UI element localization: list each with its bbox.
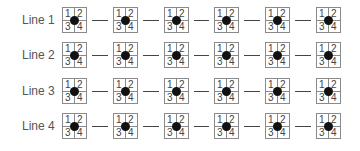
quadrant-number: 3 <box>116 22 122 32</box>
quadrant-box: 1234 <box>265 42 290 68</box>
quadrant-number: 3 <box>268 128 274 138</box>
quadrant-box: 1234 <box>164 78 189 104</box>
node-dot-icon <box>70 16 79 25</box>
connector-line <box>295 20 311 21</box>
line-label: Line 1 <box>22 13 55 27</box>
quadrant-box: 1234 <box>113 78 138 104</box>
quadrant-number: 3 <box>65 128 71 138</box>
node-dot-icon <box>172 51 181 60</box>
quadrant-number: 3 <box>217 22 223 32</box>
quadrant-box: 1234 <box>265 78 290 104</box>
quadrant-number: 3 <box>167 57 173 67</box>
quadrant-number: 3 <box>167 93 173 103</box>
node-dot-icon <box>222 87 231 96</box>
quadrant-box: 1234 <box>316 42 341 68</box>
connector-line <box>143 20 159 21</box>
quadrant-box: 1234 <box>164 42 189 68</box>
quadrant-number: 3 <box>65 22 71 32</box>
connector-line <box>143 91 159 92</box>
quadrant-number: 3 <box>116 93 122 103</box>
quadrant-number: 3 <box>268 93 274 103</box>
node-dot-icon <box>121 51 130 60</box>
quadrant-number: 3 <box>319 128 325 138</box>
quadrant-number: 3 <box>65 57 71 67</box>
line-row: Line 1123412341234123412341234 <box>0 7 360 34</box>
line-row: Line 4123412341234123412341234 <box>0 113 360 140</box>
quadrant-box: 1234 <box>316 78 341 104</box>
quadrant-box: 1234 <box>113 42 138 68</box>
quadrant-box: 1234 <box>316 113 341 139</box>
node-dot-icon <box>273 87 282 96</box>
node-dot-icon <box>121 16 130 25</box>
node-dot-icon <box>222 16 231 25</box>
connector-line <box>194 20 209 21</box>
quadrant-number: 3 <box>217 93 223 103</box>
node-dot-icon <box>222 51 231 60</box>
line-label: Line 4 <box>22 119 55 133</box>
node-dot-icon <box>70 122 79 131</box>
connector-line <box>194 55 209 56</box>
node-dot-icon <box>172 122 181 131</box>
connector-line <box>143 55 159 56</box>
quadrant-number: 3 <box>268 22 274 32</box>
node-dot-icon <box>70 87 79 96</box>
connector-line <box>295 55 311 56</box>
connector-line <box>295 91 311 92</box>
quadrant-box: 1234 <box>214 42 239 68</box>
connector-line <box>244 55 260 56</box>
quadrant-number: 3 <box>319 22 325 32</box>
quadrant-box: 1234 <box>265 7 290 33</box>
quadrant-number: 3 <box>167 22 173 32</box>
quadrant-box: 1234 <box>214 78 239 104</box>
quadrant-number: 3 <box>268 57 274 67</box>
line-row: Line 2123412341234123412341234 <box>0 42 360 69</box>
quadrant-box: 1234 <box>265 113 290 139</box>
node-dot-icon <box>121 87 130 96</box>
quadrant-box: 1234 <box>62 42 87 68</box>
node-dot-icon <box>273 122 282 131</box>
connector-line <box>244 126 260 127</box>
node-dot-icon <box>70 51 79 60</box>
node-dot-icon <box>222 122 231 131</box>
quadrant-box: 1234 <box>214 113 239 139</box>
node-dot-icon <box>121 122 130 131</box>
quadrant-number: 3 <box>319 93 325 103</box>
connector-line <box>92 126 108 127</box>
quadrant-box: 1234 <box>164 7 189 33</box>
node-dot-icon <box>273 16 282 25</box>
quadrant-number: 3 <box>167 128 173 138</box>
connector-line <box>92 55 108 56</box>
quadrant-number: 3 <box>116 57 122 67</box>
quadrant-box: 1234 <box>214 7 239 33</box>
node-dot-icon <box>324 51 333 60</box>
quadrant-box: 1234 <box>316 7 341 33</box>
connector-line <box>194 126 209 127</box>
quadrant-box: 1234 <box>113 7 138 33</box>
node-dot-icon <box>273 51 282 60</box>
quadrant-box: 1234 <box>164 113 189 139</box>
quadrant-box: 1234 <box>62 78 87 104</box>
connector-line <box>244 91 260 92</box>
node-dot-icon <box>172 87 181 96</box>
node-dot-icon <box>324 122 333 131</box>
line-row: Line 3123412341234123412341234 <box>0 78 360 105</box>
node-dot-icon <box>324 16 333 25</box>
quadrant-number: 3 <box>217 128 223 138</box>
quadrant-box: 1234 <box>62 113 87 139</box>
quadrant-number: 3 <box>217 57 223 67</box>
connector-line <box>92 20 108 21</box>
node-dot-icon <box>324 87 333 96</box>
connector-line <box>92 91 108 92</box>
quadrant-box: 1234 <box>62 7 87 33</box>
connector-line <box>244 20 260 21</box>
quadrant-number: 3 <box>65 93 71 103</box>
connector-line <box>143 126 159 127</box>
line-label: Line 3 <box>22 84 55 98</box>
quadrant-box: 1234 <box>113 113 138 139</box>
quadrant-number: 3 <box>116 128 122 138</box>
node-dot-icon <box>172 16 181 25</box>
connector-line <box>194 91 209 92</box>
quadrant-number: 3 <box>319 57 325 67</box>
connector-line <box>295 126 311 127</box>
line-label: Line 2 <box>22 48 55 62</box>
